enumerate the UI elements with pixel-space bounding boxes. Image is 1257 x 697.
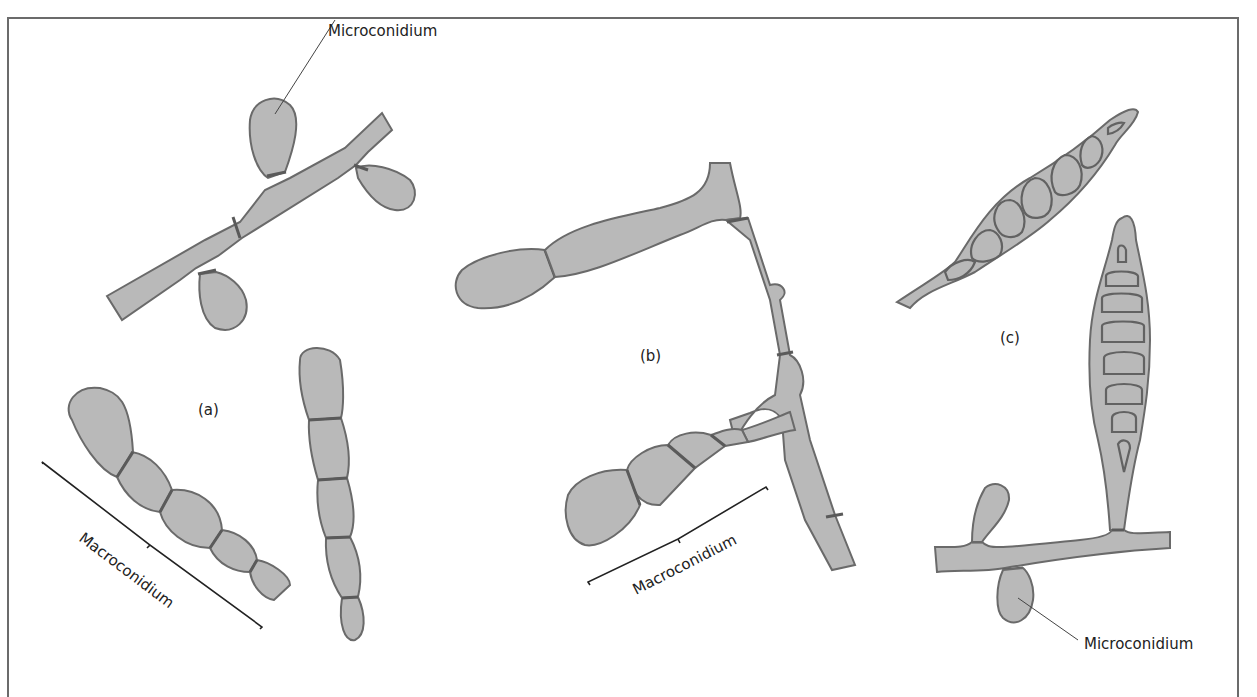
- label-microconidium-a: Microconidium: [328, 22, 437, 40]
- panel-b-hypha: [456, 163, 855, 570]
- label-macroconidium-a: Macroconidium: [76, 529, 178, 612]
- panel-c-hypha: [935, 216, 1170, 622]
- label-panel-b: (b): [640, 347, 661, 365]
- panel-a-hypha: [107, 99, 415, 330]
- label-microconidium-c: Microconidium: [1084, 635, 1193, 653]
- label-macroconidium-b: Macroconidium: [630, 531, 740, 599]
- panel-a-macroconidium-diagonal: [69, 388, 290, 600]
- panel-a-macroconidium-vertical: [299, 348, 363, 640]
- label-panel-a: (a): [198, 401, 219, 419]
- label-panel-c: (c): [1000, 329, 1020, 347]
- leader-line-micro-c: [1018, 598, 1078, 640]
- leader-line-micro-a: [275, 20, 335, 114]
